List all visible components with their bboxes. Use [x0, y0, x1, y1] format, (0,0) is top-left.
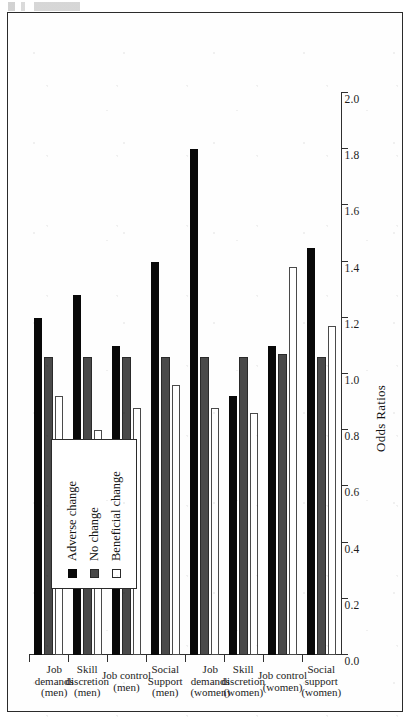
chart-legend: Adverse change No change Beneficial chan… [51, 439, 137, 589]
value-tick-label: 0.2 [332, 599, 372, 611]
bar-beneficial [289, 267, 298, 655]
value-tick-label: 2.0 [332, 93, 372, 105]
bar-beneficial [328, 326, 337, 655]
bar-adverse [190, 149, 199, 655]
category-tick [146, 654, 147, 662]
category-tick [224, 654, 225, 662]
bar-nochange [317, 357, 326, 655]
legend-item: No change [83, 450, 105, 578]
value-tick-label: 1.6 [332, 205, 372, 217]
bar-adverse [307, 248, 316, 655]
category-label-line: (women) [185, 687, 235, 699]
chart-rotor: 0.00.20.40.60.81.01.21.41.61.82.0 Social… [11, 17, 399, 707]
value-tick-label: 1.2 [332, 318, 372, 330]
legend-swatch-beneficial-icon [112, 569, 121, 578]
bar-beneficial [172, 385, 181, 655]
category-tick [302, 654, 303, 662]
bar-adverse [151, 262, 160, 655]
value-tick-label: 0.4 [332, 543, 372, 555]
legend-label-adverse: Adverse change [65, 481, 80, 561]
value-tick-label: 1.8 [332, 149, 372, 161]
bar-nochange [239, 357, 248, 655]
bar-chart-plot: 0.00.20.40.60.81.01.21.41.61.82.0 Social… [11, 17, 399, 707]
legend-label-nochange: No change [87, 507, 102, 561]
bar-nochange [200, 357, 209, 655]
value-tick-label: 1.0 [332, 374, 372, 386]
bar-beneficial [211, 408, 220, 655]
bar-adverse [268, 346, 277, 655]
legend-item: Adverse change [61, 450, 83, 578]
category-tick [185, 654, 186, 662]
bar-adverse [34, 318, 43, 655]
scan-artifact [8, 2, 128, 11]
legend-swatch-nochange-icon [90, 569, 99, 578]
bar-nochange [161, 357, 170, 655]
legend-swatch-adverse-icon [68, 569, 77, 578]
category-tick [263, 654, 264, 662]
category-label-line: Job demands [29, 664, 79, 687]
bar-adverse [229, 396, 238, 655]
category-label: Job demands(women) [185, 664, 235, 699]
value-tick-label: 1.4 [332, 262, 372, 274]
value-tick-label: 0.6 [332, 486, 372, 498]
category-label: Job demands(men) [29, 664, 79, 699]
category-label-line: Job demands [185, 664, 235, 687]
category-tick [68, 654, 69, 662]
bar-nochange [278, 354, 287, 655]
category-label-line: (men) [29, 687, 79, 699]
category-tick [29, 654, 30, 662]
bar-beneficial [250, 413, 259, 655]
legend-item: Beneficial change [105, 450, 127, 578]
legend-label-beneficial: Beneficial change [109, 471, 124, 561]
value-axis-title: Odds Ratios [373, 385, 389, 452]
figure-frame: 0.00.20.40.60.81.01.21.41.61.82.0 Social… [7, 12, 403, 712]
value-tick-label: 0.8 [332, 430, 372, 442]
category-tick [107, 654, 108, 662]
